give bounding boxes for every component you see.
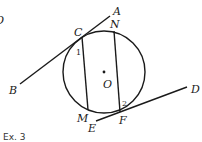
label-f: F [118,114,127,127]
chord-cm [82,37,88,110]
geometry-diagram: O A N C 1 O B D 2 M E F Ex. 3 [0,0,202,142]
tangent-line-ab [20,16,110,84]
center-point-o [103,71,106,74]
figure-caption: Ex. 3 [3,132,25,142]
label-b: B [8,84,17,97]
stray-label: O [0,14,4,27]
label-n: N [109,18,120,31]
label-a: A [112,5,121,18]
angle-label-2: 2 [122,99,127,108]
chord-nf [114,31,120,112]
angle-label-1: 1 [76,48,81,57]
tangent-line-ed [96,87,187,121]
label-c: C [74,26,83,39]
label-e: E [87,122,96,135]
label-d: D [190,83,200,96]
label-o: O [103,78,112,91]
